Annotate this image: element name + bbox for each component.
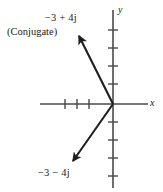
vector-lower [73, 104, 113, 161]
axis-label-y: y [118, 4, 122, 15]
axis-label-x: x [150, 97, 154, 108]
vector-upper-conjugate [79, 36, 113, 104]
label-lower-point: −3 − 4j [38, 167, 70, 178]
label-upper-point: −3 + 4j [45, 12, 77, 23]
label-conjugate-note: (Conjugate) [7, 26, 57, 37]
complex-plane-figure: −3 + 4j (Conjugate) −3 − 4j x y [0, 0, 163, 192]
